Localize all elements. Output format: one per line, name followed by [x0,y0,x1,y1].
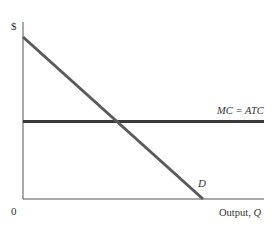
demand-label: D [197,177,206,189]
x-axis-label-var: Q [253,207,261,218]
y-axis-label: $ [11,20,17,32]
origin-label: 0 [11,205,17,217]
x-axis-label-text: Output, [219,207,253,218]
mc-atc-label: MC = ATC [216,105,265,116]
x-axis-label: Output, Q [219,207,261,218]
chart-svg: $ 0 MC = ATC D Output, Q [0,0,273,226]
demand-line [23,37,203,199]
